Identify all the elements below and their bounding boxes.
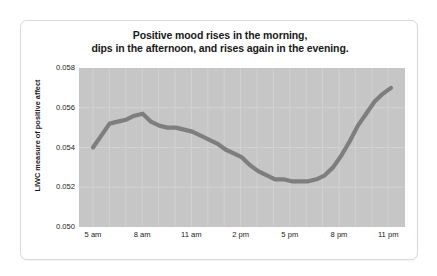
chart-title-line-2: dips in the afternoon, and rises again i… <box>21 42 418 55</box>
y-tick-label: 0.058 <box>39 64 75 72</box>
y-tick-label: 0.050 <box>39 223 75 231</box>
x-tick-label: 8 am <box>134 230 151 239</box>
x-tick-label: 11 pm <box>378 230 399 239</box>
plot-area <box>79 68 405 227</box>
x-tick-label: 2 pm <box>232 230 249 239</box>
y-tick-label: 0.052 <box>39 183 75 191</box>
x-tick-label: 8 pm <box>331 230 348 239</box>
x-tick-label: 5 pm <box>281 230 298 239</box>
y-tick-label: 0.056 <box>39 104 75 112</box>
y-axis-tick-labels: 0.058 0.056 0.054 0.052 0.050 <box>35 68 75 227</box>
data-series-line <box>79 68 405 227</box>
figure-card: Positive mood rises in the morning, dips… <box>20 20 418 260</box>
chart-title-line-1: Positive mood rises in the morning, <box>21 29 418 42</box>
x-tick-label: 5 am <box>85 230 102 239</box>
chart-title: Positive mood rises in the morning, dips… <box>21 29 418 55</box>
y-tick-label: 0.054 <box>39 144 75 152</box>
x-tick-label: 11 am <box>181 230 202 239</box>
x-axis-tick-labels: 5 am 8 am 11 am 2 pm 5 pm 8 pm 11 pm <box>79 230 405 244</box>
